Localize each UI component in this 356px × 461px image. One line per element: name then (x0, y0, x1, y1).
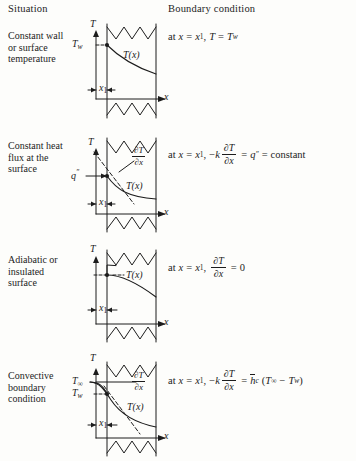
label-x-axis-row-3: x (164, 316, 168, 327)
eq1-x: x (179, 31, 184, 42)
equation-row-4: at x = x1, − k ∂T ∂x = hc ( T∞ − Tw) (168, 369, 303, 392)
label-t-axis-row-2: T (88, 136, 94, 147)
eq3-comma: , (204, 262, 207, 273)
eq2-comma: , (204, 149, 207, 160)
eq4-minus2: − (280, 375, 286, 386)
surface-point-marker (105, 43, 109, 47)
eq1-Tw-sub: w (233, 32, 238, 41)
eq1-comma: , (204, 31, 207, 42)
break-zigzag-bottom (107, 441, 156, 453)
equation-row-3: at x = x1, ∂T ∂x = 0 (168, 256, 245, 279)
x1-dim-left-arrow (91, 202, 96, 207)
diagram-constant-wall-temperature: T x Tw x1 T(x) (88, 22, 168, 122)
eq4-equals: = (186, 375, 192, 386)
label-x-axis-row-1: x (164, 91, 168, 102)
eq4-Tinf-sub: ∞ (271, 376, 276, 385)
eq1-equals2: = (218, 31, 224, 42)
eq1-T: T (209, 31, 215, 42)
t-axis-arrowhead (93, 256, 99, 263)
x1-dim-left-arrow (91, 423, 96, 428)
situation-label-row-3: Adiabatic or insulated surface (8, 254, 70, 289)
label-x-axis-row-4: x (164, 430, 168, 441)
eq3-equals: = (186, 262, 192, 273)
eq2-partial-fraction: ∂T ∂x (222, 143, 237, 166)
x1-dim-right-arrow (107, 423, 112, 428)
label-x1-row-3: x1 (99, 302, 107, 315)
label-x-axis-row-2: x (164, 206, 168, 217)
x1-dim-left-arrow (91, 88, 96, 93)
eq3-frac-numerator: ∂T (211, 256, 226, 267)
break-zigzag-bottom (107, 103, 156, 115)
label-t-axis-row-4: T (90, 352, 96, 363)
surface-point-marker (105, 392, 109, 396)
label-x1-row-2: x1 (99, 196, 107, 209)
label-profile-row-1: T(x) (123, 49, 140, 60)
eq4-h-sub: c (256, 376, 259, 385)
eq4-comma: , (204, 375, 207, 386)
label-gradient-row-4: ∂T ∂x (130, 371, 147, 392)
eq2-equals: = (186, 149, 192, 160)
x1-dim-right-arrow (107, 202, 112, 207)
label-gradient-row-2: ∂T ∂x (130, 146, 147, 167)
break-zigzag-bottom (107, 327, 156, 339)
column-header-boundary-condition: Boundary condition (168, 3, 255, 14)
eq4-frac-denominator: ∂x (222, 380, 237, 392)
label-t-wall-row-4: Tw (72, 387, 83, 400)
x1-dim-left-arrow (91, 308, 96, 313)
diagram-adiabatic-insulated-surface: T x x1 T(x) (88, 248, 168, 344)
situation-label-row-2: Constant heat flux at the surface (8, 140, 70, 175)
label-heat-flux-row-2: q″ (71, 168, 79, 181)
eq4-h-bar: h (250, 375, 255, 386)
situation-label-row-1: Constant wall or surface temperature (8, 30, 70, 65)
label-wall-temperature-row-1: Tw (72, 38, 83, 51)
situation-label-row-4: Convective boundary condition (8, 370, 70, 405)
t-axis-arrowhead (93, 30, 99, 37)
break-zigzag-top (107, 27, 156, 39)
eq3-x: x (179, 262, 184, 273)
eq4-partial-fraction: ∂T ∂x (222, 369, 237, 392)
eq2-x: x (179, 149, 184, 160)
label-profile-row-2: T(x) (126, 180, 143, 191)
diagram-constant-heat-flux: T x q″ x1 T(x) ∂T ∂x (88, 134, 168, 236)
equation-row-2: at x = x1, − k ∂T ∂x = q″ = constant (168, 143, 306, 166)
x1-dim-right-arrow (107, 308, 112, 313)
t-axis-arrowhead (93, 368, 99, 375)
eq2-frac-denominator: ∂x (222, 154, 237, 166)
break-zigzag-bottom (107, 217, 156, 229)
eq4-x: x (179, 375, 184, 386)
column-header-situation: Situation (8, 3, 48, 14)
label-x1-row-4: x1 (99, 417, 107, 430)
break-zigzag-top (107, 253, 156, 265)
eq4-k: k (215, 375, 220, 386)
eq2-equals2: = (241, 149, 247, 160)
eq2-equals3: = (262, 149, 268, 160)
label-t-axis-row-1: T (90, 18, 96, 29)
eq3-frac-denominator: ∂x (211, 267, 226, 279)
eq2-constant: constant (271, 149, 306, 160)
eq3-equals2: = (231, 262, 237, 273)
fluid-boundary-layer-curve (90, 382, 107, 394)
eq2-q-dprime: ″ (256, 150, 259, 159)
eq4-equals2: = (241, 375, 247, 386)
label-profile-row-3: T(x) (126, 269, 143, 280)
eq2-k: k (215, 149, 220, 160)
x1-dim-right-arrow (107, 88, 112, 93)
eq4-rparen: ) (299, 375, 303, 386)
label-x1-row-1: x1 (99, 82, 107, 95)
eq3-partial-fraction: ∂T ∂x (211, 256, 226, 279)
surface-point-marker (105, 174, 109, 178)
label-t-axis-row-3: T (90, 243, 96, 254)
surface-point-marker (105, 273, 109, 277)
eq3-zero: 0 (240, 262, 245, 273)
diagram-convective-boundary-condition: T x T∞ Tw x1 T(x) ∂T ∂x (88, 360, 168, 460)
eq2-frac-numerator: ∂T (222, 143, 237, 154)
eq1-equals: = (186, 31, 192, 42)
equation-row-1: at x = x1, T = Tw (168, 31, 238, 42)
label-profile-row-4: T(x) (127, 401, 144, 412)
eq4-frac-numerator: ∂T (222, 369, 237, 380)
